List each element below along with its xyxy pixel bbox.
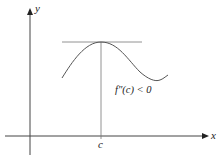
y-axis-label: y [35, 3, 40, 14]
point-c-label: c [98, 139, 103, 150]
x-axis-label: x [211, 130, 216, 141]
y-axis-arrow-icon [27, 8, 33, 15]
curve [62, 42, 168, 81]
diagram-canvas [0, 0, 222, 165]
second-derivative-annotation: f″(c) < 0 [115, 85, 152, 96]
x-axis-arrow-icon [202, 133, 209, 139]
